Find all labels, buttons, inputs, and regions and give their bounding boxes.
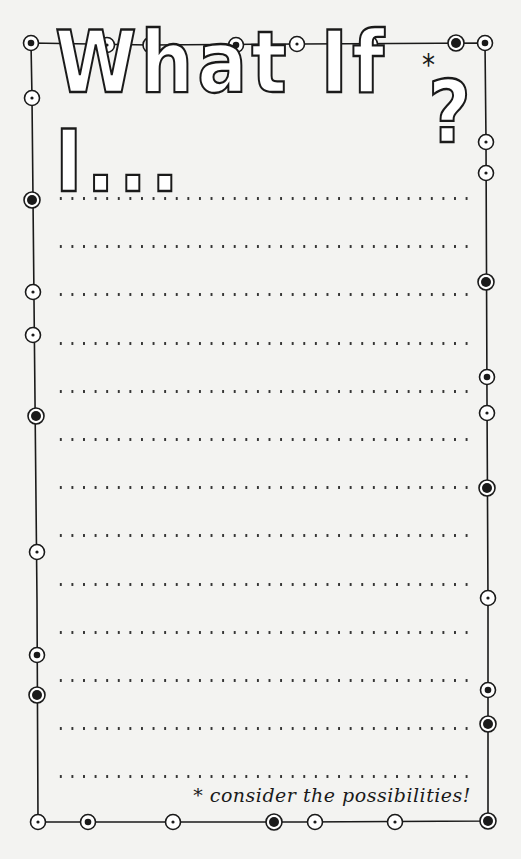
border-circle-icon <box>30 545 45 560</box>
border-circle-icon <box>266 814 282 830</box>
border-circle-icon <box>31 815 46 830</box>
dotted-writing-line[interactable] <box>55 438 475 441</box>
footer-note: * consider the possibilities! <box>193 784 471 806</box>
dotted-writing-line[interactable] <box>55 631 475 634</box>
border-circle-icon <box>478 274 494 290</box>
border-circle-icon <box>478 36 493 51</box>
border-circle-icon <box>81 815 96 830</box>
border-circle-icon <box>29 687 45 703</box>
dotted-writing-line[interactable] <box>55 245 475 248</box>
border-circle-icon <box>479 480 495 496</box>
border-circle-icon <box>25 91 40 106</box>
dotted-writing-line[interactable] <box>55 679 475 682</box>
border-circle-icon <box>24 192 40 208</box>
border-circle-icon <box>481 683 496 698</box>
page-title: What If I... ? * <box>55 55 475 170</box>
notepad-page: What If I... ? * * consider the possibil… <box>0 0 521 859</box>
border-circle-icon <box>308 815 323 830</box>
border-circle-icon <box>481 591 496 606</box>
border-circle-icon <box>166 815 181 830</box>
border-circle-icon <box>480 813 496 829</box>
border-circle-icon <box>26 285 41 300</box>
dotted-writing-line[interactable] <box>55 534 475 537</box>
dotted-writing-line[interactable] <box>55 293 475 296</box>
asterisk-icon: * <box>422 48 439 83</box>
dotted-writing-line[interactable] <box>55 583 475 586</box>
dotted-writing-line[interactable] <box>55 727 475 730</box>
border-circle-icon <box>479 135 494 150</box>
dotted-writing-line[interactable] <box>55 342 475 345</box>
dotted-writing-line[interactable] <box>55 486 475 489</box>
border-circle-icon <box>26 328 41 343</box>
border-circle-icon <box>388 815 403 830</box>
title-text: What If I... <box>55 13 400 211</box>
dotted-writing-line[interactable] <box>55 390 475 393</box>
border-circle-icon <box>480 370 495 385</box>
border-circle-icon <box>24 36 39 51</box>
border-circle-icon <box>480 406 495 421</box>
dotted-writing-line[interactable] <box>55 775 475 778</box>
border-circle-icon <box>30 648 45 663</box>
border-circle-icon <box>448 35 464 51</box>
border-circle-icon <box>479 166 494 181</box>
dotted-writing-line[interactable] <box>55 197 475 200</box>
border-circle-icon <box>480 716 496 732</box>
border-circle-icon <box>28 408 44 424</box>
